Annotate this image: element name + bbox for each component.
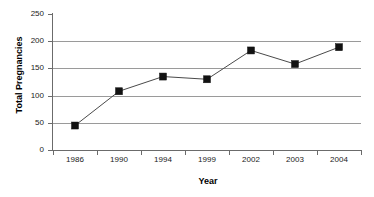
y-tick-label: 0 <box>14 146 44 154</box>
data-point-marker <box>248 47 255 54</box>
y-tick-mark <box>48 96 52 97</box>
data-point-marker <box>160 73 167 80</box>
y-tick-mark <box>48 150 52 151</box>
y-tick-label: 250 <box>14 10 44 18</box>
x-tick-mark <box>141 151 142 155</box>
series-line <box>75 47 339 125</box>
y-tick-label: 100 <box>14 92 44 100</box>
data-point-marker <box>292 61 299 68</box>
y-tick-mark <box>48 14 52 15</box>
x-tick-label: 2003 <box>273 155 317 164</box>
x-axis-title: Year <box>53 176 363 186</box>
line-chart: Total Pregnancies 050100150200250 198619… <box>0 0 374 197</box>
data-point-marker <box>116 88 123 95</box>
x-tick-mark <box>273 151 274 155</box>
x-tick-label: 1994 <box>141 155 185 164</box>
x-tick-label: 2004 <box>317 155 361 164</box>
x-tick-mark <box>97 151 98 155</box>
data-point-marker <box>72 122 79 129</box>
y-tick-mark <box>48 41 52 42</box>
y-tick-mark <box>48 68 52 69</box>
y-tick-label: 150 <box>14 64 44 72</box>
series-layer <box>0 0 374 197</box>
x-tick-label: 1990 <box>97 155 141 164</box>
x-tick-label: 2002 <box>229 155 273 164</box>
x-tick-mark <box>185 151 186 155</box>
x-tick-mark <box>53 151 54 155</box>
x-tick-mark <box>317 151 318 155</box>
x-tick-label: 1999 <box>185 155 229 164</box>
data-point-marker <box>336 44 343 51</box>
x-tick-mark <box>229 151 230 155</box>
y-tick-label: 200 <box>14 37 44 45</box>
data-markers <box>72 44 343 129</box>
data-point-marker <box>204 76 211 83</box>
y-tick-mark <box>48 123 52 124</box>
x-tick-label: 1986 <box>53 155 97 164</box>
x-tick-mark <box>361 151 362 155</box>
y-tick-label: 50 <box>14 119 44 127</box>
